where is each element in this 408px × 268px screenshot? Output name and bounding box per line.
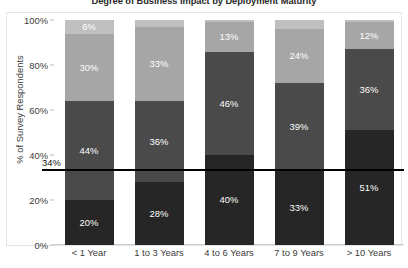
bar-segment-label: 30% (80, 63, 99, 72)
bar-segment-label: 6% (82, 22, 96, 31)
bar-segment[interactable] (275, 20, 324, 29)
bar-stack: 12%36%51% (345, 20, 394, 245)
bar-stack: 13%46%40% (205, 20, 254, 245)
bar-segment[interactable] (135, 20, 184, 27)
bar-segment-label: 28% (150, 209, 169, 218)
y-axis-title: % of Survey Respondents (14, 35, 25, 185)
bar-segment[interactable]: 12% (345, 22, 394, 49)
bar-stack: 24%39%33% (275, 20, 324, 245)
plot-area: 0%20%40%60%80%100% 6%30%44%20%33%36%28%1… (54, 20, 404, 245)
chart-title: Degree of Business Impact by Deployment … (0, 0, 408, 7)
bar-segment[interactable]: 33% (135, 27, 184, 101)
bar-column[interactable]: 12%36%51% (334, 20, 404, 245)
reference-line-label: 34% (42, 157, 61, 168)
x-tick-label: > 10 Years (334, 247, 404, 258)
bar-column[interactable]: 33%36%28% (124, 20, 194, 245)
x-tick-label: 4 to 6 Years (194, 247, 264, 258)
bar-segment-label: 13% (220, 32, 239, 41)
bar-segment-label: 12% (360, 31, 379, 40)
bars-layer: 6%30%44%20%33%36%28%13%46%40%24%39%33%12… (54, 20, 404, 245)
bar-segment[interactable]: 24% (275, 29, 324, 83)
reference-line-34 (42, 169, 404, 171)
bar-segment[interactable]: 20% (65, 200, 114, 245)
bar-segment[interactable]: 30% (65, 34, 114, 102)
x-axis-labels: < 1 Year1 to 3 Years4 to 6 Years7 to 9 Y… (54, 247, 404, 258)
bar-stack: 6%30%44%20% (65, 20, 114, 245)
bar-segment-label: 36% (360, 85, 379, 94)
bar-segment[interactable]: 51% (345, 130, 394, 245)
x-tick-label: 7 to 9 Years (264, 247, 334, 258)
bar-segment[interactable]: 39% (275, 83, 324, 171)
bar-segment-label: 33% (290, 203, 309, 212)
bar-segment[interactable]: 44% (65, 101, 114, 200)
bar-segment[interactable]: 36% (345, 49, 394, 130)
bar-segment-label: 39% (290, 122, 309, 131)
bar-segment[interactable]: 33% (275, 171, 324, 245)
bar-segment-label: 46% (220, 99, 239, 108)
bar-segment-label: 44% (80, 146, 99, 155)
bar-column[interactable]: 24%39%33% (264, 20, 334, 245)
chart-container: Degree of Business Impact by Deployment … (0, 0, 408, 268)
bar-segment-label: 24% (290, 51, 309, 60)
x-tick-label: 1 to 3 Years (124, 247, 194, 258)
bar-segment[interactable]: 28% (135, 182, 184, 245)
bar-segment[interactable]: 6% (65, 20, 114, 34)
bar-segment[interactable]: 46% (205, 52, 254, 156)
bar-segment-label: 20% (80, 218, 99, 227)
bar-column[interactable]: 6%30%44%20% (54, 20, 124, 245)
bar-segment-label: 36% (150, 137, 169, 146)
bar-segment[interactable]: 13% (205, 22, 254, 51)
bar-segment-label: 40% (220, 195, 239, 204)
x-tick-label: < 1 Year (54, 247, 124, 258)
bar-segment-label: 33% (150, 59, 169, 68)
bar-segment-label: 51% (360, 183, 379, 192)
bar-column[interactable]: 13%46%40% (194, 20, 264, 245)
bar-stack: 33%36%28% (135, 20, 184, 245)
